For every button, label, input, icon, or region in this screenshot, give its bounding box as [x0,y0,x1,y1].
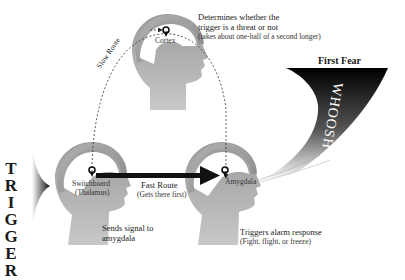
trigger-letter: T [3,160,19,177]
fast-route-note: (Gets there first) [137,191,187,199]
trigger-letter: I [3,194,19,211]
cortex-description-1: Determines whether the [198,13,279,22]
trigger-label: T R I G G E R [3,160,19,279]
cortex-note: (takes about one-half of a second longer… [198,33,321,41]
switchboard-label-1: Switchboard [72,180,110,188]
whoosh-shape [258,68,388,182]
trigger-wedge [32,150,50,225]
cortex-description-2: trigger is a threat or not [198,23,278,32]
trigger-letter: G [3,211,19,228]
trigger-letter: G [3,228,19,245]
cortex-label: Cortex [155,37,175,45]
first-fear-title: First Fear [318,55,361,66]
amygdala-description: Triggers alarm response [240,228,322,237]
trigger-letter: R [3,177,19,194]
amygdala-label: Amygdala [225,178,256,186]
switchboard-label-2: (Thalamus) [75,189,110,197]
switchboard-description-2: amygdala [102,234,135,243]
amygdala-note: (Fight, flight, or freeze) [240,238,311,246]
cortex-head [132,14,208,110]
fast-route-label: Fast Route [141,181,178,190]
switchboard-description-1: Sends signal to [102,224,153,233]
trigger-letter: E [3,245,19,262]
trigger-letter: R [3,262,19,279]
